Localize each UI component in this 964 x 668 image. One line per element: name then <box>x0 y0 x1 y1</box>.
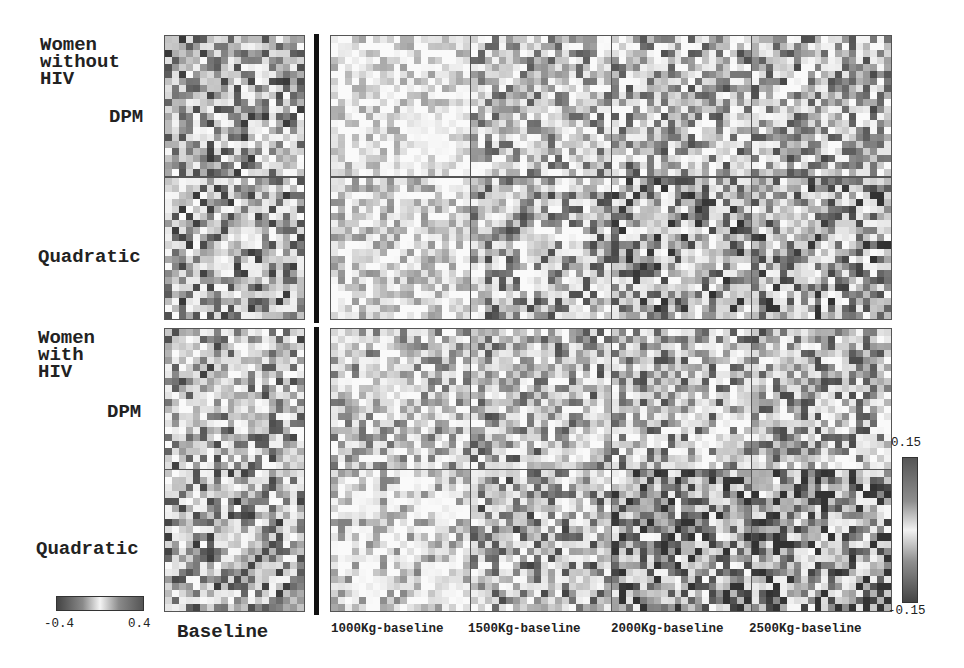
heatmap-without-hiv-quadratic-2500kg-baseline <box>751 177 892 320</box>
heatmap-without-hiv-quadratic-1000kg-baseline <box>330 177 471 320</box>
separator-bar-bottom <box>314 327 319 615</box>
column-label-2000kg: 2000Kg-baseline <box>611 622 724 636</box>
column-label-1500kg: 1500Kg-baseline <box>468 622 581 636</box>
heatmap-with-hiv-quadratic-2500kg-baseline <box>751 469 892 612</box>
heatmap-with-hiv-quadratic-baseline <box>164 469 305 612</box>
heatmap-without-hiv-dpm-1000kg-baseline <box>330 35 471 177</box>
baseline-colorbar <box>56 596 144 611</box>
separator-bar-top <box>314 34 319 323</box>
difference-colorbar <box>902 457 918 603</box>
heatmap-without-hiv-dpm-1500kg-baseline <box>470 35 612 177</box>
heatmap-with-hiv-quadratic-1000kg-baseline <box>330 469 471 612</box>
row-label-dpm-2: DPM <box>107 404 141 421</box>
column-label-2500kg: 2500Kg-baseline <box>749 622 862 636</box>
row-label-quadratic-1: Quadratic <box>38 249 141 266</box>
row-label-quadratic-2: Quadratic <box>36 541 139 558</box>
difference-colorbar-min: -0.15 <box>888 604 926 618</box>
heatmap-without-hiv-dpm-2000kg-baseline <box>611 35 752 177</box>
heatmap-without-hiv-dpm-baseline <box>164 35 305 177</box>
heatmap-without-hiv-dpm-2500kg-baseline <box>751 35 892 177</box>
heatmap-with-hiv-dpm-2000kg-baseline <box>611 328 752 470</box>
heatmap-with-hiv-quadratic-1500kg-baseline <box>470 469 612 612</box>
heatmap-without-hiv-quadratic-2000kg-baseline <box>611 177 752 320</box>
column-label-1000kg: 1000Kg-baseline <box>331 622 444 636</box>
group-label-with-hiv: Women with HIV <box>38 330 95 381</box>
heatmap-with-hiv-dpm-2500kg-baseline <box>751 328 892 470</box>
heatmap-with-hiv-dpm-1000kg-baseline <box>330 328 471 470</box>
heatmap-without-hiv-quadratic-baseline <box>164 177 305 320</box>
baseline-colorbar-max: 0.4 <box>128 617 151 631</box>
heatmap-with-hiv-dpm-1500kg-baseline <box>470 328 612 470</box>
row-label-dpm-1: DPM <box>109 109 143 126</box>
baseline-colorbar-min: -0.4 <box>44 617 74 631</box>
difference-colorbar-max: 0.15 <box>891 436 921 450</box>
heatmap-with-hiv-quadratic-2000kg-baseline <box>611 469 752 612</box>
group-label-without-hiv: Women without HIV <box>40 37 120 88</box>
heatmap-with-hiv-dpm-baseline <box>164 328 305 470</box>
column-label-baseline: Baseline <box>177 624 268 641</box>
heatmap-without-hiv-quadratic-1500kg-baseline <box>470 177 612 320</box>
